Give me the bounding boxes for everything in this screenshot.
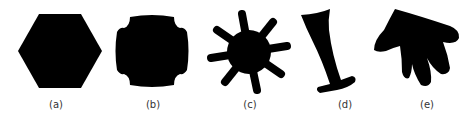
hexagon-shape: [18, 14, 102, 88]
panel-label-c: (c): [243, 99, 256, 110]
panel-label-e: (e): [420, 99, 434, 110]
hand-shape: [374, 9, 459, 86]
star-shape: [211, 14, 287, 90]
boot-shape: [301, 9, 356, 93]
shapes-canvas: [0, 0, 476, 117]
panel-label-a: (a): [49, 99, 63, 110]
panel-label-d: (d): [338, 99, 352, 110]
notched-square-shape: [116, 15, 189, 87]
panel-label-b: (b): [146, 99, 160, 110]
shape-figure: (a) (b) (c) (d) (e): [0, 0, 476, 117]
